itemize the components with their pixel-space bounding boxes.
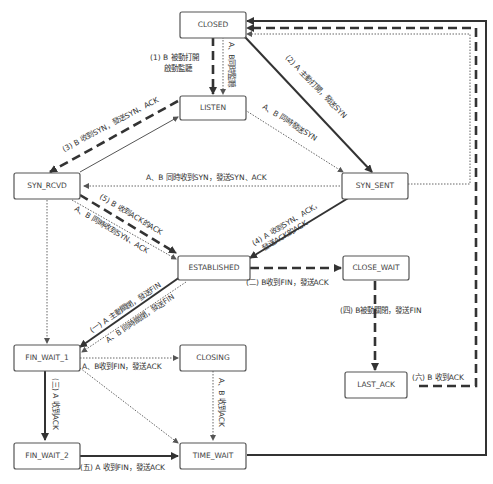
state-fin-wait-2: FIN_WAIT_2 bbox=[14, 443, 80, 469]
label-closed-synsent: (2) A 主動打開，發送SYN bbox=[284, 52, 350, 120]
state-fin-wait-1: FIN_WAIT_1 bbox=[14, 345, 80, 371]
state-closing: CLOSING bbox=[180, 345, 246, 371]
svg-text:FIN_WAIT_2: FIN_WAIT_2 bbox=[25, 451, 69, 460]
svg-text:SYN_RCVD: SYN_RCVD bbox=[27, 181, 67, 190]
label-closed-listen-1b: 啟動監聽 bbox=[164, 63, 193, 73]
edge-listen-synrcvd bbox=[50, 101, 178, 172]
label-closewait-lastack: (四) B被動關閉，發送FIN bbox=[340, 305, 422, 315]
label-synrcvd-est-sim: A、B 同時收到SYN、ACK bbox=[73, 203, 152, 256]
label-listen-synrcvd: (3) B 收到SYN，發送SYN、ACK bbox=[60, 94, 161, 154]
edge-synrcvd-listen bbox=[80, 117, 178, 172]
state-closed: CLOSED bbox=[180, 12, 246, 38]
state-last-ack: LAST_ACK bbox=[345, 372, 407, 398]
svg-text:LAST_ACK: LAST_ACK bbox=[357, 380, 396, 389]
label-closing-timewait: A、B 收到ACK bbox=[217, 378, 227, 428]
edge-finwait1-timewait bbox=[80, 368, 178, 443]
svg-text:FIN_WAIT_1: FIN_WAIT_1 bbox=[25, 353, 69, 362]
svg-text:CLOSE_WAIT: CLOSE_WAIT bbox=[352, 263, 400, 272]
state-syn-rcvd: SYN_RCVD bbox=[14, 173, 80, 199]
svg-text:TIME_WAIT: TIME_WAIT bbox=[192, 451, 234, 460]
label-est-closewait: (二) B收到FIN，發送ACK bbox=[246, 277, 330, 287]
svg-text:CLOSED: CLOSED bbox=[198, 20, 229, 29]
svg-text:CLOSING: CLOSING bbox=[196, 353, 230, 362]
label-lastack-closed: (六) B 收到ACK bbox=[412, 372, 465, 382]
label-synsent-est-4a: (4) A 收到SYN、ACK， bbox=[250, 199, 323, 248]
state-syn-sent: SYN_SENT bbox=[342, 173, 408, 199]
label-finwait1-closing: A、B收到FIN，發送ACK bbox=[82, 361, 163, 371]
svg-text:LISTEN: LISTEN bbox=[200, 103, 226, 112]
label-finwait1-finwait2: (三) A 收到ACK bbox=[51, 378, 61, 431]
label-closed-listen-2: A、B同時監聽 bbox=[227, 42, 237, 88]
state-time-wait: TIME_WAIT bbox=[180, 443, 246, 469]
svg-text:ESTABLISHED: ESTABLISHED bbox=[188, 263, 239, 272]
tcp-state-diagram: CLOSED LISTEN SYN_RCVD SYN_SENT ESTABLIS… bbox=[0, 0, 493, 484]
edge-lastack-closed bbox=[247, 28, 476, 386]
edge-established-finwait1 bbox=[80, 277, 180, 347]
edge-synsent-closed bbox=[247, 34, 470, 184]
svg-text:SYN_SENT: SYN_SENT bbox=[356, 181, 395, 190]
state-listen: LISTEN bbox=[180, 96, 246, 120]
label-closed-listen-1: (1) B 被動打開 bbox=[150, 52, 199, 62]
state-established: ESTABLISHED bbox=[178, 256, 250, 280]
label-synsent-synrcvd: A、B 同時收到SYN，發送SYN、ACK bbox=[146, 172, 268, 182]
state-close-wait: CLOSE_WAIT bbox=[343, 256, 409, 280]
label-finwait2-timewait: (五) A 收到FIN，發送ACK bbox=[80, 462, 166, 472]
